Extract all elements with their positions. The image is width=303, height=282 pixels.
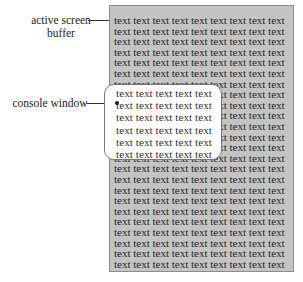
console-text-line: text text text text text xyxy=(116,149,212,160)
active-screen-buffer-label-line2: buffer xyxy=(20,27,102,40)
console-window: text text text text texttext text text t… xyxy=(104,84,222,160)
console-text-line: text text text text text xyxy=(116,88,212,99)
console-text-line: text text text text text xyxy=(116,100,212,111)
console-window-pointer-dot xyxy=(115,101,119,105)
active-screen-buffer-label: active screen buffer xyxy=(20,14,102,40)
buffer-text-line: text text text text text text text text … xyxy=(114,259,285,270)
console-text-line: text text text text text xyxy=(116,137,212,148)
console-window-label: console window xyxy=(10,97,90,110)
console-text-line: text text text text text xyxy=(116,112,212,123)
console-text-line: text text text text text xyxy=(116,125,212,136)
